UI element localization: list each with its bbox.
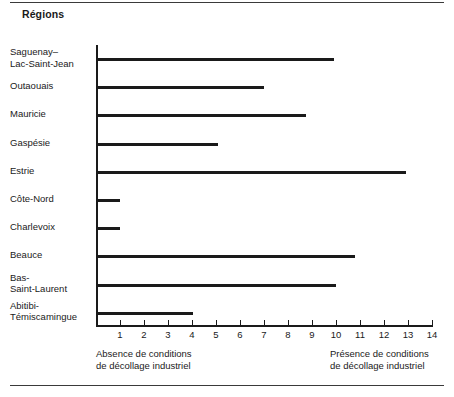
category-label: Outaouais <box>10 80 96 92</box>
category-label: Côte-Nord <box>10 193 96 205</box>
category-label: Saguenay– Lac-Saint-Jean <box>10 46 96 69</box>
x-tick-label: 2 <box>134 329 154 340</box>
category-label: Gaspésie <box>10 137 96 149</box>
bar <box>96 312 193 315</box>
x-tick-label: 3 <box>158 329 178 340</box>
x-tick <box>336 320 337 326</box>
x-tick-label: 13 <box>398 329 418 340</box>
bar <box>96 171 406 174</box>
category-label: Abitibi- Témiscamingue <box>10 300 96 323</box>
x-tick <box>288 320 289 326</box>
category-label: Estrie <box>10 165 96 177</box>
x-tick <box>384 320 385 326</box>
bar <box>96 143 218 146</box>
caption-absence: Absence de conditions de décollage indus… <box>96 348 192 372</box>
category-label: Bas- Saint-Laurent <box>10 272 96 295</box>
bar <box>96 284 336 287</box>
x-tick-label: 5 <box>206 329 226 340</box>
x-tick <box>360 320 361 326</box>
x-tick-label: 1 <box>110 329 130 340</box>
caption-presence: Présence de conditions de décollage indu… <box>330 348 429 372</box>
x-tick-label: 4 <box>182 329 202 340</box>
x-tick-label: 11 <box>350 329 370 340</box>
x-tick <box>168 320 169 326</box>
x-tick <box>312 320 313 326</box>
x-tick <box>240 320 241 326</box>
category-label: Beauce <box>10 249 96 261</box>
x-tick-label: 7 <box>254 329 274 340</box>
x-tick-label: 14 <box>422 329 442 340</box>
figure-container: Régions 1234567891011121314 Saguenay– La… <box>0 0 454 397</box>
bar <box>96 199 120 202</box>
bar <box>96 58 334 61</box>
bar <box>96 86 264 89</box>
x-tick <box>264 320 265 326</box>
x-tick-label: 6 <box>230 329 250 340</box>
x-tick-label: 12 <box>374 329 394 340</box>
page-title: Régions <box>22 8 64 20</box>
top-rule <box>10 2 444 3</box>
bottom-rule <box>10 385 444 386</box>
category-label: Charlevoix <box>10 221 96 233</box>
category-label: Mauricie <box>10 108 96 120</box>
x-tick <box>432 320 433 326</box>
x-tick-label: 8 <box>278 329 298 340</box>
x-tick <box>144 320 145 326</box>
bar <box>96 255 355 258</box>
bar <box>96 227 120 230</box>
bar <box>96 114 306 117</box>
x-tick <box>120 320 121 326</box>
x-tick <box>408 320 409 326</box>
x-tick <box>216 320 217 326</box>
x-tick-label: 10 <box>326 329 346 340</box>
x-tick-label: 9 <box>302 329 322 340</box>
x-tick <box>192 320 193 326</box>
